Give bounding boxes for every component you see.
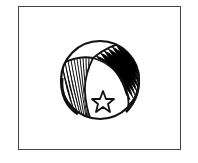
beach-ball-illustration xyxy=(0,0,198,163)
